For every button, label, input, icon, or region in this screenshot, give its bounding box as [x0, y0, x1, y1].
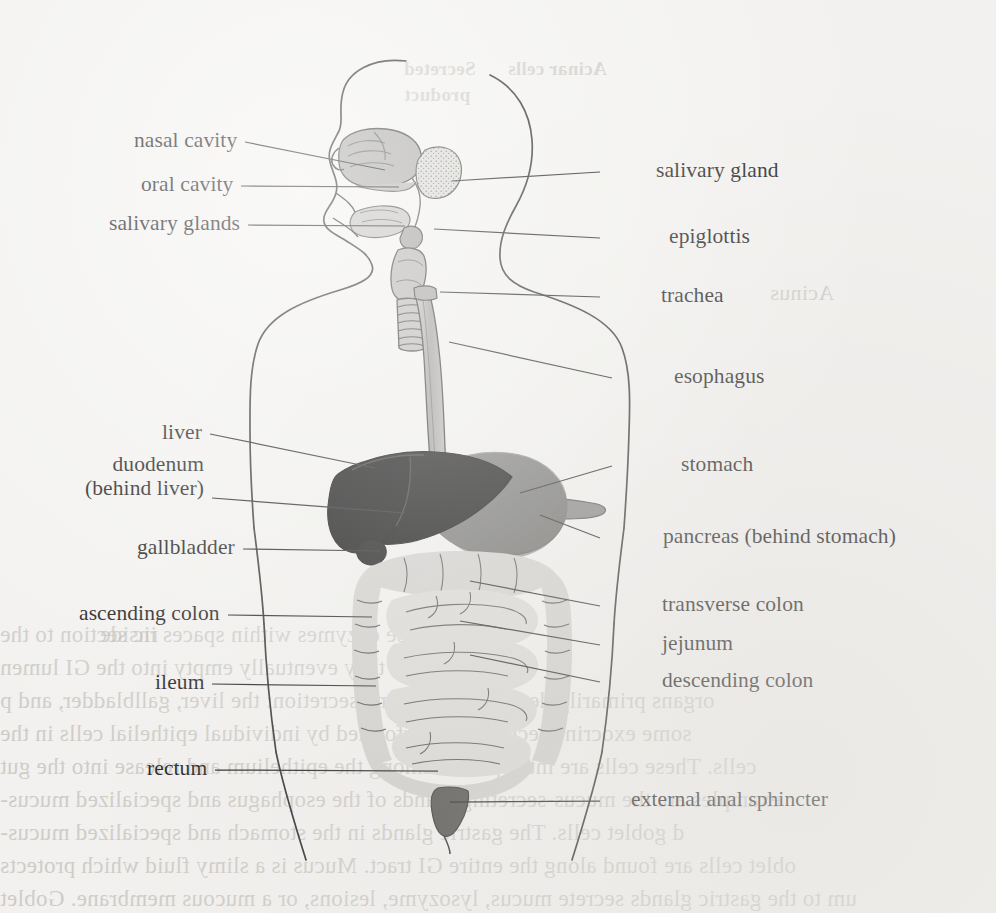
label-text: liver	[162, 420, 202, 444]
label-text: esophagus	[674, 364, 764, 388]
label-text: trachea	[661, 283, 724, 307]
label-text: gallbladder	[137, 535, 235, 559]
label-liver: liver	[162, 420, 202, 444]
label-text: rectum	[147, 756, 207, 780]
nasal-cavity-shape	[339, 128, 422, 187]
label-oral-cavity: oral cavity	[141, 172, 233, 196]
label-text: external anal sphincter	[631, 787, 828, 811]
label-duodenum: duodenum(behind liver)	[85, 452, 204, 500]
label-text: stomach	[681, 452, 753, 476]
leader-line-salivary-gland	[452, 172, 600, 181]
label-text: salivary gland	[656, 158, 779, 182]
label-gallbladder: gallbladder	[137, 535, 235, 559]
label-text: epiglottis	[669, 224, 750, 248]
head-anatomy	[332, 128, 462, 301]
label-text: duodenum	[112, 452, 204, 476]
label-jejunum: jejunum	[662, 631, 733, 655]
gallbladder-shape	[357, 539, 387, 565]
figure-page: SecretedAcinar cellsproductAcinusric sec…	[0, 0, 996, 913]
label-salivary-gland: salivary gland	[656, 158, 779, 182]
label-pancreas: pancreas (behind stomach)	[663, 524, 896, 548]
label-nasal-cavity: nasal cavity	[134, 128, 237, 152]
label-text: transverse colon	[662, 592, 804, 616]
label-text-line2: (behind liver)	[85, 476, 204, 500]
leader-line-rectum	[215, 770, 438, 771]
leader-line-esophagus	[449, 342, 612, 378]
rectum-shape	[431, 787, 468, 854]
salivary-gland-shape	[416, 147, 461, 199]
leader-line-ileum	[212, 684, 376, 686]
label-epiglottis: epiglottis	[669, 224, 750, 248]
label-text: descending colon	[662, 668, 813, 692]
label-ileum: ileum	[155, 670, 204, 694]
leader-line-liver	[210, 434, 375, 468]
label-esophagus: esophagus	[674, 364, 764, 388]
label-rectum: rectum	[147, 756, 207, 780]
label-salivary-glands: salivary glands	[109, 211, 240, 235]
tongue-shape	[350, 206, 410, 238]
external-anal-sphincter-shape	[444, 836, 450, 854]
label-ascending-colon: ascending colon	[79, 601, 220, 625]
label-stomach: stomach	[681, 452, 753, 476]
label-text: jejunum	[662, 631, 733, 655]
leader-line-ascending-colon	[228, 615, 372, 617]
label-trachea: trachea	[661, 283, 724, 307]
leader-line-epiglottis	[434, 229, 600, 238]
label-text: ascending colon	[79, 601, 220, 625]
label-text: ileum	[155, 670, 204, 694]
label-text: salivary glands	[109, 211, 240, 235]
label-descending-colon: descending colon	[662, 668, 813, 692]
leader-line-external-anal-sphincter	[450, 801, 600, 802]
epiglottis-shape	[400, 226, 422, 249]
label-external-anal-sphincter: external anal sphincter	[631, 787, 828, 811]
small-intestine-shape	[385, 590, 539, 777]
leader-line-trachea	[440, 292, 600, 297]
label-text: oral cavity	[141, 172, 233, 196]
label-text: pancreas (behind stomach)	[663, 524, 896, 548]
label-text: nasal cavity	[134, 128, 237, 152]
label-transverse-colon: transverse colon	[662, 592, 804, 616]
